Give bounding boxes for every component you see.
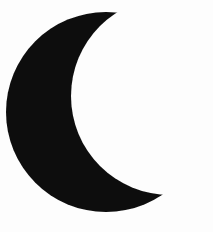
crescent-moon-shape: [0, 0, 213, 232]
moon-shape-group: [0, 0, 213, 232]
image-canvas: Solid black crescent moon silhouette on …: [0, 0, 213, 232]
crescent-moon-illustration: Solid black crescent moon silhouette on …: [0, 0, 213, 232]
